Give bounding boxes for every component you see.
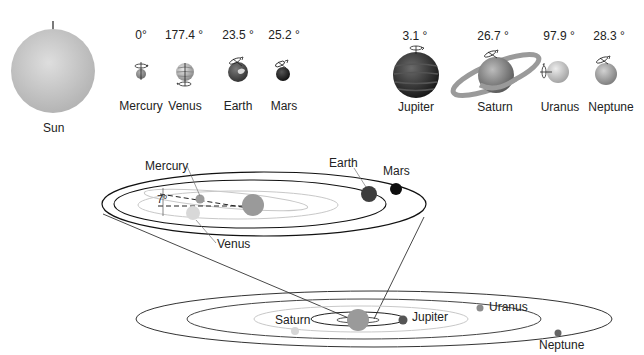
jupiter-tilt: 3.1 °	[403, 29, 428, 43]
earth-illustration	[228, 57, 248, 82]
mercury-label: Mercury	[119, 99, 162, 113]
saturn-tilt: 26.7 °	[477, 29, 509, 43]
earth-tilt: 23.5 °	[222, 28, 254, 42]
neptune-illustration	[595, 56, 617, 85]
inner-mercury-label: Mercury	[145, 159, 188, 173]
inner-mars-label: Mars	[383, 164, 410, 178]
outer-neptune-label: Neptune	[539, 338, 584, 352]
inner-venus-label: Venus	[217, 237, 250, 251]
uranus-illustration	[540, 61, 569, 83]
venus-illustration	[176, 63, 194, 86]
venus-label: Venus	[168, 99, 201, 113]
solar-system-diagram	[0, 0, 644, 355]
saturn-label: Saturn	[477, 100, 512, 114]
neptune-tilt: 28.3 °	[593, 29, 625, 43]
saturn-illustration	[449, 47, 543, 104]
outer-saturn-label: Saturn	[275, 313, 310, 327]
uranus-label: Uranus	[541, 100, 580, 114]
venus-tilt: 177.4 °	[165, 28, 203, 42]
mercury-illustration	[135, 62, 148, 80]
outer-uranus-label: Uranus	[489, 300, 528, 314]
neptune-label: Neptune	[588, 100, 633, 114]
mars-label: Mars	[271, 99, 298, 113]
mars-illustration	[275, 60, 290, 81]
mars-tilt: 25.2 °	[268, 28, 300, 42]
earth-label: Earth	[224, 99, 253, 113]
inclination-angle-label: 7°	[157, 193, 168, 205]
uranus-tilt: 97.9 °	[543, 29, 575, 43]
jupiter-illustration	[393, 46, 439, 98]
sun-illustration	[11, 21, 95, 113]
mercury-tilt: 0°	[135, 28, 146, 42]
sun-label: Sun	[43, 121, 64, 135]
outer-jupiter-label: Jupiter	[412, 310, 448, 324]
inner-earth-label: Earth	[329, 156, 358, 170]
jupiter-label: Jupiter	[398, 100, 434, 114]
